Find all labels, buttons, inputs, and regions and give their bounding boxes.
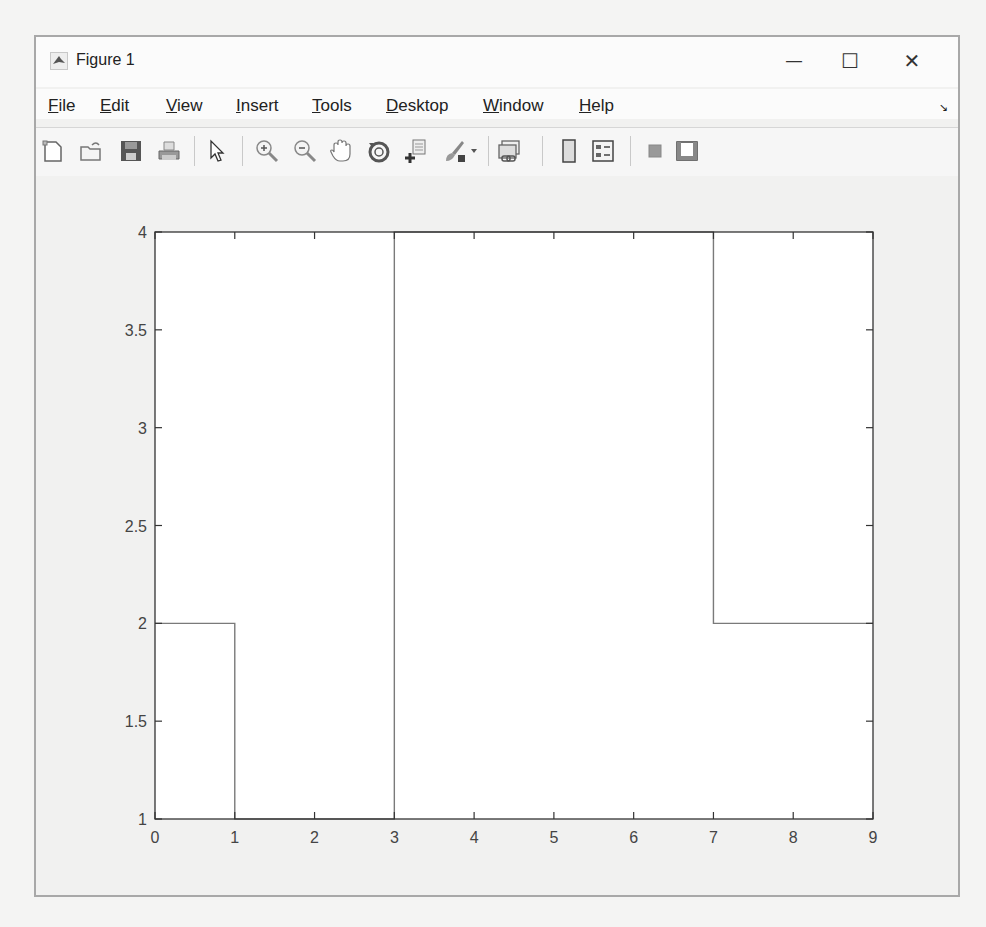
show-plot-tools-button[interactable] <box>674 138 700 164</box>
hide-plot-tools-button[interactable] <box>642 138 668 164</box>
minimize-icon: — <box>786 52 802 70</box>
x-tick-label: 6 <box>629 829 638 846</box>
brush-dropdown-button[interactable] <box>468 138 480 164</box>
figure-window: Figure 1 — ☐ ✕ File Edit View Insert Too… <box>34 35 960 897</box>
insert-legend-button[interactable] <box>590 138 616 164</box>
y-tick-label: 4 <box>138 224 147 241</box>
maximize-button[interactable]: ☐ <box>830 45 870 77</box>
print-button[interactable] <box>156 138 182 164</box>
save-button[interactable] <box>118 138 144 164</box>
open-file-button[interactable] <box>78 138 104 164</box>
toolbar-separator <box>242 136 243 166</box>
zoom-out-button[interactable] <box>292 138 318 164</box>
rotate-3d-icon <box>366 138 392 164</box>
hide-plot-tools-icon <box>642 138 668 164</box>
minimize-button[interactable]: — <box>774 45 814 77</box>
brush-icon <box>442 138 468 164</box>
show-plot-tools-icon <box>674 138 700 164</box>
link-plot-icon <box>496 138 522 164</box>
brush-dropdown-icon <box>468 138 480 164</box>
stairs-chart[interactable]: 012345678911.522.533.54 <box>36 176 958 895</box>
menu-bar: File Edit View Insert Tools Desktop Wind… <box>36 89 958 119</box>
edit-plot-arrow-icon <box>204 138 230 164</box>
y-tick-label: 3 <box>138 420 147 437</box>
menu-help[interactable]: Help <box>579 96 614 116</box>
menu-edit[interactable]: Edit <box>100 96 129 116</box>
x-tick-label: 0 <box>151 829 160 846</box>
zoom-in-button[interactable] <box>254 138 280 164</box>
matlab-logo-icon <box>50 52 68 70</box>
x-tick-label: 1 <box>230 829 239 846</box>
x-tick-label: 3 <box>390 829 399 846</box>
y-tick-label: 1.5 <box>125 713 147 730</box>
toolbar-separator <box>542 136 543 166</box>
save-icon <box>118 138 144 164</box>
link-plot-button[interactable] <box>496 138 522 164</box>
rotate-3d-button[interactable] <box>366 138 392 164</box>
figure-canvas: 012345678911.522.533.54 <box>36 176 958 895</box>
menu-desktop[interactable]: Desktop <box>386 96 448 116</box>
y-tick-label: 1 <box>138 811 147 828</box>
maximize-icon: ☐ <box>841 49 859 73</box>
data-cursor-button[interactable] <box>402 138 428 164</box>
legend-icon <box>590 138 616 164</box>
toolbar-separator <box>488 136 489 166</box>
open-file-icon <box>78 138 104 164</box>
insert-colorbar-button[interactable] <box>556 138 582 164</box>
toolbar-separator <box>194 136 195 166</box>
x-tick-label: 8 <box>789 829 798 846</box>
close-icon: ✕ <box>904 49 921 73</box>
x-tick-label: 9 <box>869 829 878 846</box>
menu-tools[interactable]: Tools <box>312 96 352 116</box>
x-tick-label: 7 <box>709 829 718 846</box>
x-tick-label: 5 <box>549 829 558 846</box>
menu-view[interactable]: View <box>166 96 203 116</box>
dock-figure-icon[interactable]: ↘ <box>939 101 948 114</box>
y-tick-label: 2.5 <box>125 518 147 535</box>
zoom-out-icon <box>292 138 318 164</box>
pan-button[interactable] <box>328 138 354 164</box>
pan-hand-icon <box>328 138 354 164</box>
close-button[interactable]: ✕ <box>892 45 932 77</box>
x-tick-label: 2 <box>310 829 319 846</box>
menu-file[interactable]: File <box>48 96 75 116</box>
zoom-in-icon <box>254 138 280 164</box>
menu-insert[interactable]: Insert <box>236 96 279 116</box>
data-cursor-icon <box>402 138 428 164</box>
new-figure-button[interactable] <box>40 138 66 164</box>
title-bar[interactable]: Figure 1 — ☐ ✕ <box>36 37 958 87</box>
new-figure-icon <box>40 138 66 164</box>
edit-plot-button[interactable] <box>204 138 230 164</box>
x-tick-label: 4 <box>470 829 479 846</box>
toolbar-separator <box>630 136 631 166</box>
y-tick-label: 3.5 <box>125 322 147 339</box>
colorbar-icon <box>556 138 582 164</box>
axes-background <box>155 232 873 819</box>
y-tick-label: 2 <box>138 615 147 632</box>
print-icon <box>156 138 182 164</box>
brush-button[interactable] <box>442 138 468 164</box>
window-title: Figure 1 <box>76 51 135 69</box>
menu-window[interactable]: Window <box>483 96 543 116</box>
figure-toolbar <box>36 127 958 177</box>
